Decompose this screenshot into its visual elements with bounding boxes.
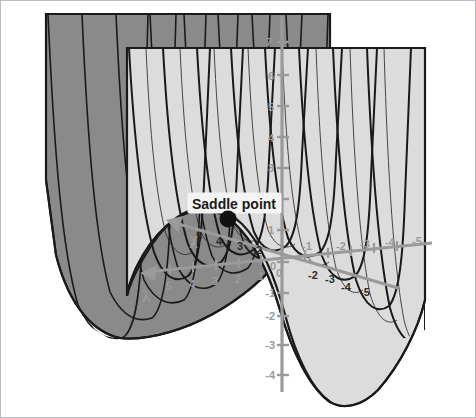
lambda-tick-3: 3 [212, 275, 218, 287]
vaxis-tick-6: 6 [268, 70, 274, 82]
figure-root: 7 6 5 4 3 2 1 0 -1 -2 -3 -4 [0, 0, 476, 418]
vaxis-tick-n3: -3 [265, 339, 275, 351]
chi-tick-n4: -4 [341, 281, 352, 293]
chi-tick-2: 2 [256, 244, 262, 256]
chi-axis-name: χ [189, 230, 198, 248]
lambda-tick-5: 5 [166, 280, 172, 292]
saddle-point-label: Saddle point [192, 196, 276, 212]
lambda-tick-4: 4 [189, 278, 196, 290]
vaxis-tick-3: 3 [268, 162, 274, 174]
lambda-tick-n2: -2 [336, 240, 346, 252]
lambda-tick-n1: -1 [302, 240, 312, 252]
chi-tick-n5: -5 [360, 286, 370, 298]
vaxis-tick-4: 4 [268, 132, 275, 144]
lambda-tick-n4: -4 [385, 236, 396, 248]
vaxis-tick-5: 5 [268, 101, 274, 113]
chi-tick-4: 4 [216, 235, 223, 247]
chi-tick-n2: -2 [308, 269, 318, 281]
saddle-point-plot: 7 6 5 4 3 2 1 0 -1 -2 -3 -4 [0, 0, 476, 418]
lambda-tick-n5: -5 [412, 235, 422, 247]
vaxis-tick-7: 7 [266, 36, 272, 48]
chi-tick-3: 3 [237, 240, 243, 252]
vaxis-tick-n1: -1 [265, 287, 275, 299]
lambda-axis-name: λ [142, 287, 151, 306]
vaxis-tick-1: 1 [268, 224, 274, 236]
chi-tick-n3: -3 [325, 273, 335, 285]
saddle-point-dot [220, 211, 237, 228]
lambda-tick-1: 1 [258, 270, 264, 282]
lambda-tick-2: 2 [235, 273, 241, 285]
vaxis-tick-n4: -4 [265, 369, 276, 381]
lambda-tick-n3: -3 [360, 238, 370, 250]
lambda-tick-0: 0 [276, 267, 282, 279]
vaxis-tick-n2: -2 [265, 310, 275, 322]
